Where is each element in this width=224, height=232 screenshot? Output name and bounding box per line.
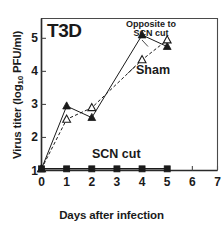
data-point-filled-square [89,166,95,172]
data-point-filled-square [39,166,45,172]
data-point-filled-triangle [63,102,71,109]
x-axis-tick-label: 6 [184,176,200,188]
marker-filled-square [139,166,145,172]
y-axis-tick-label: 5 [24,32,38,44]
marker-open-triangle [138,56,146,63]
x-axis-tick-label: 4 [134,176,150,188]
x-axis-tick-label: 0 [34,176,50,188]
annotation-leader-0 [142,40,148,47]
marker-filled-square [89,166,95,172]
series-label-opposite-line2: SCN cut [133,28,168,38]
data-point-filled-square [164,166,170,172]
y-axis-tick-label: 1 [24,165,38,177]
series-label-opposite-to-scn-cut: Opposite to SCN cut [114,20,188,39]
data-point-filled-triangle [88,113,96,120]
data-point-filled-triangle [163,42,171,49]
data-point-filled-square [139,166,145,172]
marker-open-triangle [63,115,71,122]
y-axis-tick-label: 2 [24,131,38,143]
x-axis-tick-label: 3 [109,176,125,188]
chart-figure: Virus titer (log10 PFU/ml) 12345 0123456… [0,0,223,232]
x-axis-tick-labels: 01234567 [0,176,223,192]
x-axis-tick-label: 5 [159,176,175,188]
y-axis-tick-labels: 12345 [12,0,38,232]
marker-filled-triangle [163,42,171,49]
marker-filled-square [64,166,70,172]
series-label-sham: Sham [136,64,170,77]
data-point-open-triangle [138,56,146,63]
marker-filled-square [164,166,170,172]
x-axis-tick-label: 7 [210,176,224,188]
marker-filled-square [114,166,120,172]
y-axis-tick-label: 3 [24,98,38,110]
data-point-open-triangle [63,115,71,122]
data-point-filled-square [64,166,70,172]
x-axis-label: Days after infection [0,209,223,221]
y-axis-tick-label: 4 [24,65,38,77]
data-point-filled-square [114,166,120,172]
annotation-leader-1 [128,66,136,73]
x-axis-tick-label: 1 [59,176,75,188]
marker-filled-triangle [88,113,96,120]
x-axis-tick-label: 2 [84,176,100,188]
series-label-scn-cut: SCN cut [92,148,141,161]
marker-filled-triangle [63,102,71,109]
marker-filled-square [39,166,45,172]
panel-title: T3D [47,21,82,41]
